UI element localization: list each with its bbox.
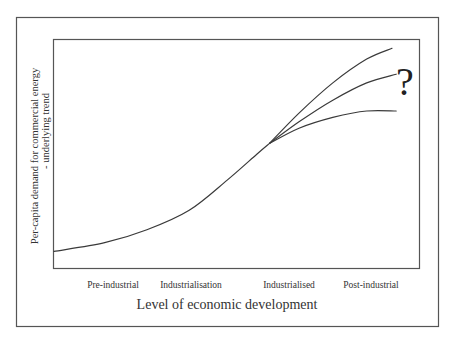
chart: Per-capita demand for commercial energy … xyxy=(0,0,449,339)
question-mark-annotation: ? xyxy=(396,59,414,104)
x-tick-label-post-industrial: Post-industrial xyxy=(343,280,399,290)
y-axis-label-line-1: Per-capita demand for commercial energy xyxy=(29,67,40,244)
x-tick-label-industrialisation: Industrialisation xyxy=(160,280,222,290)
x-tick-label-industrialised: Industrialised xyxy=(263,280,315,290)
curves xyxy=(54,48,396,251)
y-axis-label-line-2: - underlying trend xyxy=(40,92,51,169)
y-axis-label: Per-capita demand for commercial energy … xyxy=(29,67,51,244)
trend-line-underlying xyxy=(54,143,270,251)
x-tick-labels: Pre-industrial Industrialisation Industr… xyxy=(87,280,399,290)
trend-line-low-scenario xyxy=(270,111,397,144)
x-axis-title: Level of economic development xyxy=(137,297,318,312)
x-tick-label-pre-industrial: Pre-industrial xyxy=(87,280,139,290)
plot-area-frame xyxy=(54,40,420,269)
